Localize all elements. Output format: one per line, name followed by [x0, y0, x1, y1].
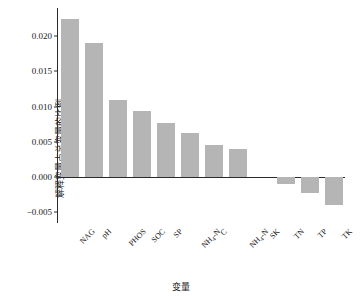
x-tick-label: TK	[340, 227, 354, 241]
bar-series	[58, 8, 345, 223]
y-tick-mark	[54, 141, 57, 142]
bar	[133, 111, 152, 177]
bar	[229, 149, 248, 177]
bar	[181, 133, 200, 177]
bar	[301, 177, 320, 193]
y-tick-mark	[54, 71, 57, 72]
x-tick-label: NAG	[78, 227, 97, 246]
x-tick-label: TP	[316, 227, 329, 240]
x-tick-label: SP	[172, 227, 185, 240]
x-tick-label: PHOS	[127, 227, 148, 248]
x-tick-label: SK	[268, 227, 282, 241]
bar	[277, 177, 296, 184]
bar	[85, 43, 104, 177]
y-tick-mark	[54, 106, 57, 107]
bar	[325, 177, 344, 205]
y-tick-mark	[54, 36, 57, 37]
bar-chart: 解释变量占总变量的比例 0.0200.0150.0100.0050.000−0.…	[0, 0, 361, 296]
bar	[205, 145, 224, 177]
x-tick-label: pH	[100, 227, 113, 240]
bar	[109, 100, 128, 178]
x-axis-title: 变量	[0, 280, 361, 293]
x-tick-label: TN	[292, 227, 306, 241]
bar	[61, 19, 80, 178]
x-tick-label: NH4-N	[248, 227, 271, 250]
x-tick-label: SOC	[150, 227, 167, 244]
bar	[157, 123, 176, 177]
y-tick-mark	[54, 212, 57, 213]
y-tick-label: −0.005	[27, 207, 57, 217]
plot-area: 0.0200.0150.0100.0050.000−0.005 NAGpHPHO…	[57, 8, 345, 223]
